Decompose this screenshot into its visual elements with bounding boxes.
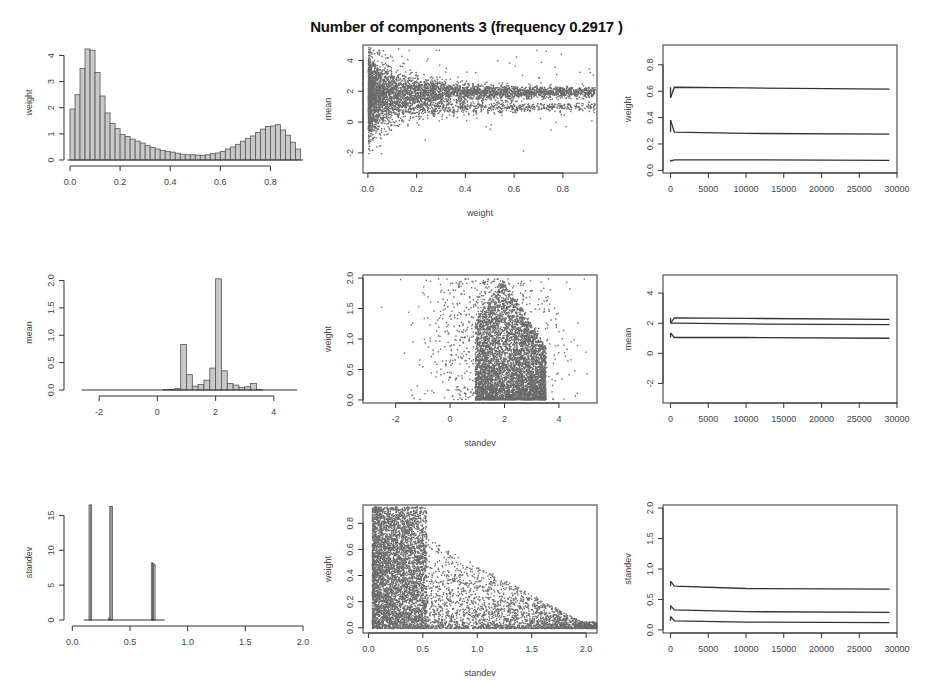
x-tick-label: 0 xyxy=(668,414,673,424)
x-tick-label: 15000 xyxy=(771,414,796,424)
y-tick-label: 3 xyxy=(46,79,56,84)
y-axis-label: weight xyxy=(323,555,333,583)
histogram-bar xyxy=(255,133,260,160)
scatter-weight-vs-mean: 0.00.20.40.60.8-2024meanweight xyxy=(310,40,620,255)
scatter-points xyxy=(381,278,588,400)
histogram-bar xyxy=(245,138,250,160)
x-tick-label: 4 xyxy=(271,407,276,417)
histogram-bar xyxy=(187,375,193,390)
y-tick-label: 1.5 xyxy=(645,532,655,545)
plot-frame xyxy=(663,505,897,633)
histogram-bar xyxy=(200,155,205,160)
y-tick-label: 0.2 xyxy=(345,595,355,608)
y-tick-label: 0.4 xyxy=(345,569,355,582)
histogram-bar xyxy=(90,505,92,620)
x-tick-label: 10000 xyxy=(734,644,759,654)
histogram-bar xyxy=(192,386,198,390)
y-tick-label: 4 xyxy=(46,53,56,58)
x-tick-label: 0.4 xyxy=(459,184,472,194)
x-axis-label: weight xyxy=(466,208,494,218)
trace-line xyxy=(671,323,890,325)
x-tick-label: 0.8 xyxy=(557,184,570,194)
y-tick-label: 4 xyxy=(645,291,655,296)
trace-line xyxy=(671,120,890,134)
histogram-bar xyxy=(75,95,80,160)
figure-title: Number of components 3 (frequency 0.2917… xyxy=(0,18,933,35)
trace-line xyxy=(671,87,890,98)
x-tick-label: 0 xyxy=(448,414,453,424)
trace-plot-standev: 0500010000150002000025000300000.00.51.01… xyxy=(620,500,933,700)
y-tick-label: 1.0 xyxy=(46,329,56,342)
histogram-bar xyxy=(150,147,155,160)
x-tick-label: 25000 xyxy=(847,644,872,654)
x-tick-label: 0.8 xyxy=(264,177,277,187)
histogram-bar xyxy=(195,155,200,160)
trace-plot-weight: 0500010000150002000025000300000.00.20.40… xyxy=(620,40,933,255)
histogram-bar xyxy=(204,380,210,390)
y-tick-label: 15 xyxy=(46,510,56,520)
histogram-bar xyxy=(233,385,239,390)
x-tick-label: 0.0 xyxy=(362,184,375,194)
x-tick-label: -2 xyxy=(392,414,400,424)
y-tick-label: 0.0 xyxy=(46,384,56,397)
histogram-bar xyxy=(115,129,120,160)
histogram-bar xyxy=(95,72,100,160)
y-tick-label: 4 xyxy=(345,58,355,63)
y-tick-label: 0.0 xyxy=(345,394,355,407)
histogram-bar xyxy=(251,383,257,390)
trace-line xyxy=(671,318,890,323)
histogram-bar xyxy=(260,129,265,160)
histogram-bar xyxy=(135,141,140,160)
histogram-bar xyxy=(216,279,222,390)
histogram-bar xyxy=(165,151,170,160)
histogram-bar xyxy=(221,371,227,390)
histogram-bar xyxy=(185,155,190,160)
y-tick-label: 0.5 xyxy=(46,356,56,369)
histogram-mean: -20240.00.51.01.52.0mean xyxy=(0,270,310,485)
x-tick-label: 1.0 xyxy=(471,644,484,654)
histogram-bar xyxy=(265,127,270,160)
y-tick-label: 0 xyxy=(46,617,56,622)
histogram-weight: 0.00.20.40.60.801234weight xyxy=(0,40,310,255)
trace-line xyxy=(671,160,890,161)
histogram-bar xyxy=(175,153,180,160)
trace-line xyxy=(671,606,890,613)
histogram-bar xyxy=(290,142,295,160)
x-tick-label: 0.2 xyxy=(410,184,423,194)
x-tick-label: 0 xyxy=(155,407,160,417)
histogram-bar xyxy=(125,136,130,160)
y-tick-label: 0.0 xyxy=(345,622,355,635)
x-tick-label: 20000 xyxy=(809,414,834,424)
histogram-bar xyxy=(120,134,125,160)
trace-line xyxy=(671,617,890,623)
histogram-bar xyxy=(270,126,275,160)
x-tick-label: 15000 xyxy=(771,184,796,194)
histogram-bar xyxy=(100,96,105,160)
y-axis-label: weight xyxy=(623,95,633,123)
x-tick-label: 10000 xyxy=(734,414,759,424)
histogram-bar xyxy=(250,136,255,160)
x-tick-label: 5000 xyxy=(698,184,718,194)
y-tick-label: 1.5 xyxy=(46,302,56,315)
x-tick-label: 20000 xyxy=(809,644,834,654)
y-tick-label: 0 xyxy=(46,157,56,162)
y-axis-label: mean xyxy=(24,321,34,344)
histogram-bar xyxy=(140,143,145,160)
y-axis-label: mean xyxy=(623,328,633,351)
histogram-bar xyxy=(111,506,113,620)
scatter-points xyxy=(368,47,596,154)
y-axis-label: standev xyxy=(24,546,34,578)
y-tick-label: 0.6 xyxy=(345,543,355,556)
x-tick-label: 30000 xyxy=(884,644,909,654)
x-tick-label: 5000 xyxy=(698,414,718,424)
histogram-bar xyxy=(154,565,156,620)
histogram-bar xyxy=(215,153,220,160)
x-tick-label: 15000 xyxy=(771,644,796,654)
histogram-bar xyxy=(210,154,215,160)
y-tick-label: -2 xyxy=(645,379,655,387)
x-tick-label: 2.0 xyxy=(580,644,593,654)
histogram-bar xyxy=(295,149,300,160)
y-tick-label: 2.0 xyxy=(46,274,56,287)
histogram-bar xyxy=(225,149,230,160)
y-axis-label: mean xyxy=(323,98,333,121)
